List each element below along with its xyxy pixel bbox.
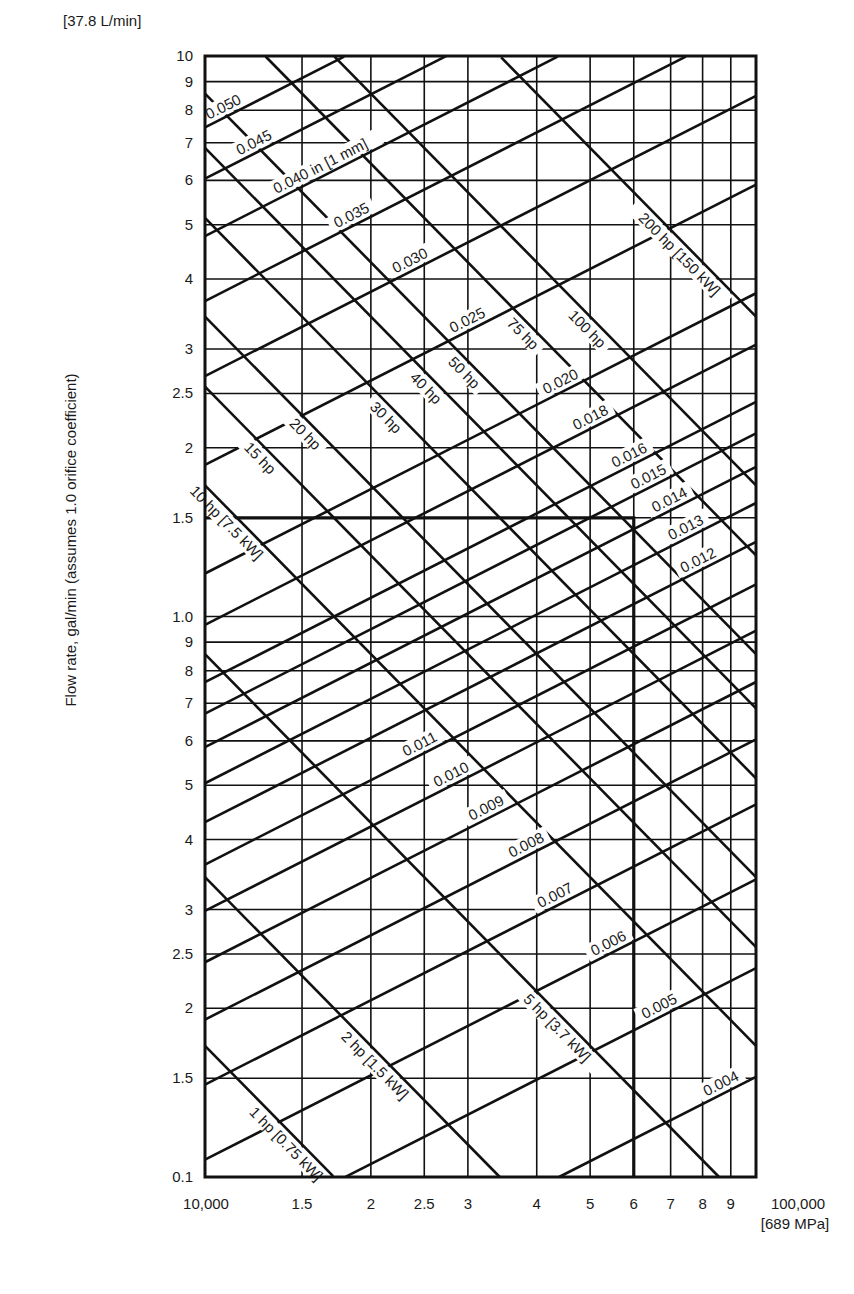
orifice-line <box>205 467 756 747</box>
horsepower-label: 100 hp <box>561 302 614 355</box>
svg-text:10 hp [7.5 kW]: 10 hp [7.5 kW] <box>187 482 267 563</box>
y-tick-label: 7 <box>185 134 193 151</box>
x-tick-label: 2.5 <box>414 1195 435 1212</box>
svg-text:0.040 in [1 mm]: 0.040 in [1 mm] <box>270 135 370 197</box>
x-tick-label: 100,000 <box>771 1195 825 1212</box>
y-tick-label: 6 <box>185 171 193 188</box>
svg-text:5 hp [3.7 kW]: 5 hp [3.7 kW] <box>520 990 594 1065</box>
y-tick-label: 6 <box>185 732 193 749</box>
horsepower-line <box>266 57 756 556</box>
x-tick-label: 9 <box>727 1195 735 1212</box>
orifice-line <box>559 1077 756 1177</box>
x-unit-note: [689 MPa] <box>761 1215 829 1232</box>
svg-text:1 hp [0.75 kW]: 1 hp [0.75 kW] <box>246 1103 326 1184</box>
svg-text:2 hp [1.5 kW]: 2 hp [1.5 kW] <box>338 1028 412 1103</box>
y-tick-label: 1.5 <box>172 509 193 526</box>
y-tick-label: 0.1 <box>172 1168 193 1185</box>
y-tick-label: 2 <box>185 999 193 1016</box>
horsepower-line <box>205 1046 333 1176</box>
x-tick-label: 2 <box>367 1195 375 1212</box>
orifice-line <box>346 968 756 1177</box>
y-tick-label: 2 <box>185 439 193 456</box>
y-unit-note: [37.8 L/min] <box>63 12 141 29</box>
orifice-flow-chart: 0.0040.0050.0060.0070.0080.0090.0100.011… <box>0 0 854 1294</box>
y-tick-label: 3 <box>185 901 193 918</box>
y-tick-label: 5 <box>185 776 193 793</box>
x-tick-label: 10,000 <box>183 1195 229 1212</box>
y-tick-label: 9 <box>185 73 193 90</box>
horsepower-label: 1 hp [0.75 kW] <box>236 1093 337 1195</box>
y-tick-label: 8 <box>185 101 193 118</box>
x-tick-label: 8 <box>698 1195 706 1212</box>
x-tick-label: 1.5 <box>292 1195 313 1212</box>
x-tick-label: 4 <box>533 1195 541 1212</box>
y-tick-label: 9 <box>185 633 193 650</box>
y-axis-title: Flow rate, gal/min (assumes 1.0 orifice … <box>62 373 79 706</box>
y-tick-label: 7 <box>185 694 193 711</box>
y-tick-label: 4 <box>185 831 193 848</box>
x-tick-label: 7 <box>666 1195 674 1212</box>
x-tick-label: 6 <box>630 1195 638 1212</box>
y-tick-label: 3 <box>185 340 193 357</box>
y-tick-label: 2.5 <box>172 384 193 401</box>
y-tick-label: 4 <box>185 270 193 287</box>
horsepower-line <box>501 57 756 316</box>
y-tick-label: 5 <box>185 216 193 233</box>
y-tick-label: 1.0 <box>172 608 193 625</box>
x-tick-label: 5 <box>586 1195 594 1212</box>
horsepower-label: 2 hp [1.5 kW] <box>328 1017 423 1113</box>
horsepower-line <box>205 877 500 1177</box>
y-tick-label: 2.5 <box>172 945 193 962</box>
y-tick-label: 10 <box>176 47 193 64</box>
horsepower-label: 200 hp [150 kW] <box>626 200 733 308</box>
x-tick-label: 3 <box>464 1195 472 1212</box>
y-tick-label: 8 <box>185 662 193 679</box>
orifice-line <box>205 804 756 1084</box>
y-tick-label: 1.5 <box>172 1069 193 1086</box>
